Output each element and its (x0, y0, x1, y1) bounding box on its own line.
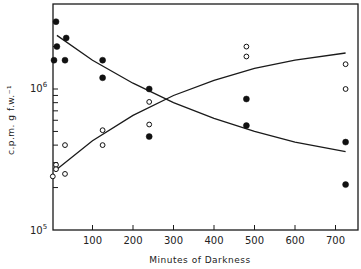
open-data-point (100, 143, 105, 148)
x-axis-label: Minutes of Darkness (149, 255, 250, 265)
filled-data-point (63, 35, 69, 41)
open-data-point (147, 100, 152, 105)
x-tick-label: 100 (83, 235, 102, 246)
open-data-point (50, 174, 55, 179)
open-data-point (100, 128, 105, 133)
filled-data-point (146, 86, 152, 92)
data-points (50, 19, 348, 188)
x-tick-label: 200 (123, 235, 142, 246)
filled-data-point (54, 44, 60, 50)
x-tick-label: 500 (245, 235, 264, 246)
filled-data-point (146, 134, 152, 140)
open-data-point (147, 122, 152, 127)
chart: 100200300400500600700 106 105 Minutes of… (0, 0, 361, 269)
open-data-point (343, 87, 348, 92)
filled-data-point (53, 19, 59, 25)
y-tick-label-1e5: 105 (30, 223, 47, 236)
plot-frame (53, 4, 358, 230)
filled-data-point (243, 123, 249, 129)
fit-curves (57, 35, 346, 169)
open-data-point (343, 62, 348, 67)
x-tick-label: 300 (164, 235, 183, 246)
x-tick-label: 600 (285, 235, 304, 246)
y-axis-label: c.p.m. g f.w.⁻¹ (6, 85, 16, 155)
filled-data-point (51, 57, 57, 63)
y-tick-label-1e6: 106 (30, 81, 48, 94)
x-axis-ticks: 100200300400500600700 (83, 225, 345, 246)
open-data-point (244, 54, 249, 59)
x-tick-label: 400 (204, 235, 223, 246)
filled-data-point (100, 75, 106, 81)
filled-data-point (62, 57, 68, 63)
increasing-fit-curve (57, 53, 346, 169)
open-data-point (244, 44, 249, 49)
open-data-point (63, 172, 68, 177)
filled-data-point (100, 57, 106, 63)
filled-data-point (343, 139, 349, 145)
decreasing-fit-curve (57, 35, 346, 151)
x-tick-label: 700 (326, 235, 345, 246)
open-data-point (54, 167, 59, 172)
filled-data-point (343, 182, 349, 188)
filled-data-point (243, 96, 249, 102)
open-data-point (63, 143, 68, 148)
